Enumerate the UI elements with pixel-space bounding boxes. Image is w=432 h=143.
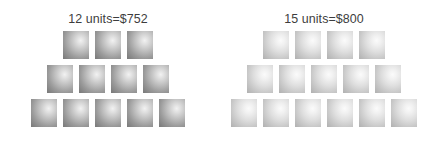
unit-square <box>46 64 74 94</box>
unit-row <box>216 30 432 60</box>
unit-row <box>216 64 432 94</box>
unit-square <box>278 64 306 94</box>
unit-square <box>142 64 170 94</box>
unit-square <box>158 98 186 128</box>
unit-row <box>0 98 216 128</box>
unit-square <box>310 64 338 94</box>
unit-square <box>358 30 386 60</box>
unit-square <box>78 64 106 94</box>
unit-square <box>358 98 386 128</box>
unit-square <box>62 30 90 60</box>
unit-square <box>374 64 402 94</box>
unit-square <box>126 98 154 128</box>
group-label-15-units: 15 units=$800 <box>225 11 424 27</box>
unit-square <box>30 98 58 128</box>
unit-square <box>126 30 154 60</box>
unit-square <box>294 30 322 60</box>
unit-square <box>94 30 122 60</box>
unit-square <box>62 98 90 128</box>
unit-square <box>262 98 290 128</box>
unit-square <box>326 98 354 128</box>
unit-group-15: 15 units=$800 <box>216 0 432 143</box>
unit-square <box>110 64 138 94</box>
unit-row <box>0 64 216 94</box>
unit-square <box>94 98 122 128</box>
unit-row <box>216 98 432 128</box>
unit-square <box>326 30 354 60</box>
unit-rows-15 <box>216 30 432 132</box>
unit-rows-12 <box>0 30 216 132</box>
group-label-12-units: 12 units=$752 <box>9 11 208 27</box>
pictogram-figure: 12 units=$752 15 units=$800 <box>0 0 432 143</box>
unit-square <box>342 64 370 94</box>
unit-square <box>390 98 418 128</box>
unit-square <box>262 30 290 60</box>
unit-square <box>294 98 322 128</box>
unit-row <box>0 30 216 60</box>
unit-square <box>246 64 274 94</box>
unit-group-12: 12 units=$752 <box>0 0 216 143</box>
unit-square <box>230 98 258 128</box>
